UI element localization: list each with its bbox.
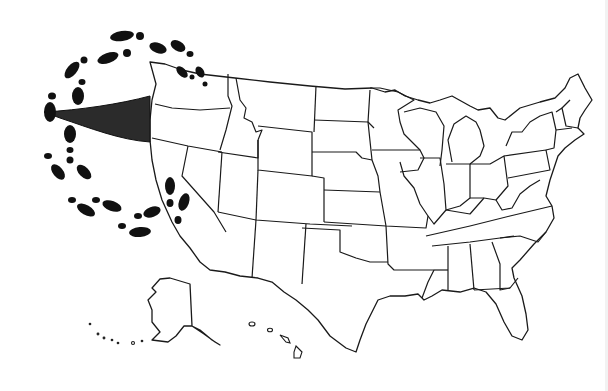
us-map-illustration xyxy=(0,0,608,391)
hawaii-map xyxy=(249,322,302,358)
funnel-pointer-shape xyxy=(44,96,150,142)
alaska-map xyxy=(148,278,220,345)
aleutian-islands xyxy=(89,323,143,344)
contiguous-us-map xyxy=(150,62,592,352)
